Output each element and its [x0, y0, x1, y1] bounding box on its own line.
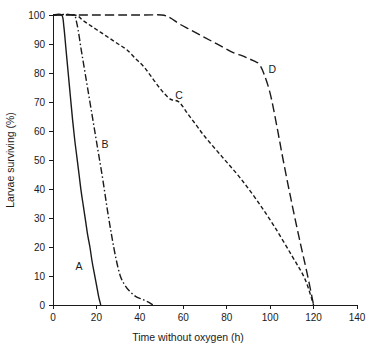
- y-tick-label: 10: [34, 271, 46, 282]
- curves-group: [53, 14, 314, 305]
- x-tick-label: 100: [262, 312, 279, 323]
- y-tick-label: 60: [34, 126, 46, 137]
- y-tick-label: 40: [34, 184, 46, 195]
- series-label-b: B: [102, 138, 109, 150]
- x-axis-tick-labels: 020406080100120140: [50, 312, 366, 323]
- y-tick-label: 70: [34, 97, 46, 108]
- line-chart: 0102030405060708090100 02040608010012014…: [0, 0, 377, 347]
- y-tick-label: 30: [34, 213, 46, 224]
- y-tick-label: 100: [28, 10, 45, 21]
- x-tick-label: 0: [50, 312, 56, 323]
- x-tick-label: 20: [91, 312, 103, 323]
- x-tick-label: 80: [221, 312, 233, 323]
- x-tick-label: 140: [349, 312, 366, 323]
- x-axis-title: Time without oxygen (h): [132, 331, 244, 343]
- y-axis-ticks: [49, 15, 53, 305]
- y-tick-label: 20: [34, 242, 46, 253]
- series-label-d: D: [269, 63, 277, 75]
- series-label-a: A: [76, 260, 83, 272]
- y-axis-tick-labels: 0102030405060708090100: [28, 10, 45, 311]
- y-tick-label: 90: [34, 39, 46, 50]
- x-tick-label: 120: [305, 312, 322, 323]
- chart-container: 0102030405060708090100 02040608010012014…: [0, 0, 377, 347]
- x-axis-ticks: [53, 305, 357, 309]
- series-label-c: C: [175, 89, 183, 101]
- axis-group: [49, 15, 357, 309]
- x-tick-label: 40: [134, 312, 146, 323]
- y-axis-title: Larvae surviving (%): [4, 112, 16, 208]
- y-tick-label: 80: [34, 68, 46, 79]
- series-line-b: [53, 14, 153, 305]
- y-tick-label: 0: [39, 300, 45, 311]
- x-tick-label: 60: [178, 312, 190, 323]
- y-tick-label: 50: [34, 155, 46, 166]
- series-labels-group: A B C D: [76, 63, 277, 272]
